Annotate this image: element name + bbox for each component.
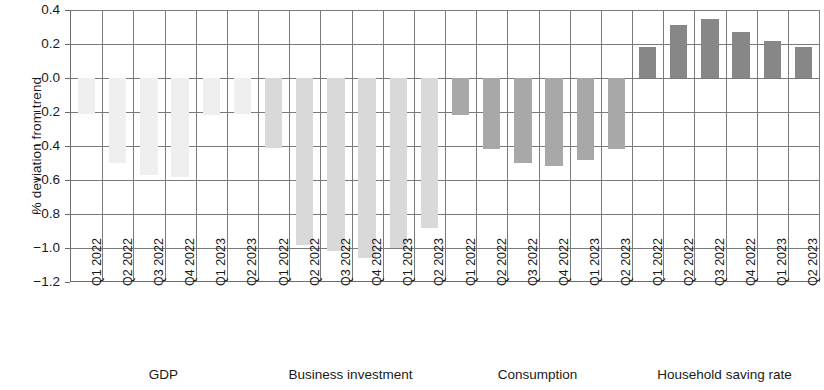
- y-axis-tick-label: −0.2: [8, 105, 60, 119]
- y-axis-tick-label: −0.6: [8, 173, 60, 187]
- bar: [203, 78, 220, 115]
- x-axis-tick-label: Q3 2022: [340, 196, 353, 286]
- x-axis-tick-label: Q2 2022: [496, 196, 509, 286]
- y-axis-tick-label: −1.2: [8, 275, 60, 289]
- y-axis-tick-label: −1.0: [8, 241, 60, 255]
- x-axis-tick-label: Q1 2022: [91, 196, 104, 286]
- y-axis-tick-label: 0.2: [8, 37, 60, 51]
- y-axis-tick-label: 0.0: [8, 71, 60, 85]
- bar: [109, 78, 126, 163]
- x-axis-tick-label: Q1 2022: [652, 196, 665, 286]
- bar: [670, 25, 687, 78]
- x-axis-tick-label: Q1 2023: [776, 196, 789, 286]
- bar: [639, 47, 656, 78]
- bar: [577, 78, 594, 160]
- x-axis-tick-label: Q1 2023: [402, 196, 415, 286]
- x-axis-tick-label: Q1 2022: [278, 196, 291, 286]
- bar: [545, 78, 562, 166]
- x-axis-tick-label: Q4 2022: [558, 196, 571, 286]
- bar: [171, 78, 188, 177]
- bar: [452, 78, 469, 115]
- bar: [483, 78, 500, 149]
- x-axis-tick-label: Q2 2023: [246, 196, 259, 286]
- x-axis-tick-label: Q4 2022: [745, 196, 758, 286]
- bar: [140, 78, 157, 175]
- x-axis-tick-label: Q2 2023: [620, 196, 633, 286]
- y-axis-tick-label: −0.4: [8, 139, 60, 153]
- x-axis-tick-label: Q2 2022: [122, 196, 135, 286]
- x-axis-tick-label: Q2 2022: [309, 196, 322, 286]
- bar: [78, 78, 95, 114]
- bar-chart: % deviation from trend 0.40.20.0−0.2−0.4…: [0, 0, 824, 390]
- bar: [265, 78, 282, 148]
- bar: [701, 19, 718, 79]
- y-axis-tick-label: 0.4: [8, 3, 60, 17]
- bar: [234, 78, 251, 114]
- bar: [514, 78, 531, 163]
- x-axis-tick-label: Q3 2022: [527, 196, 540, 286]
- y-axis-tick-mark: [65, 282, 70, 283]
- x-axis-tick-label: Q1 2023: [215, 196, 228, 286]
- x-axis-tick-label: Q2 2022: [683, 196, 696, 286]
- x-axis-tick-label: Q4 2022: [371, 196, 384, 286]
- x-axis-tick-label: Q1 2022: [465, 196, 478, 286]
- x-axis-tick-label: Q4 2022: [184, 196, 197, 286]
- x-axis-tick-label: Q2 2023: [433, 196, 446, 286]
- x-axis-tick-label: Q2 2023: [807, 196, 820, 286]
- bar: [732, 32, 749, 78]
- x-axis-tick-label: Q1 2023: [589, 196, 602, 286]
- x-axis-tick-label: Q3 2022: [153, 196, 166, 286]
- y-axis-tick-label: −0.8: [8, 207, 60, 221]
- x-axis-tick-label: Q3 2022: [714, 196, 727, 286]
- bar: [608, 78, 625, 149]
- bar: [795, 47, 812, 78]
- bar: [764, 41, 781, 78]
- group-label: Household saving rate: [605, 368, 824, 382]
